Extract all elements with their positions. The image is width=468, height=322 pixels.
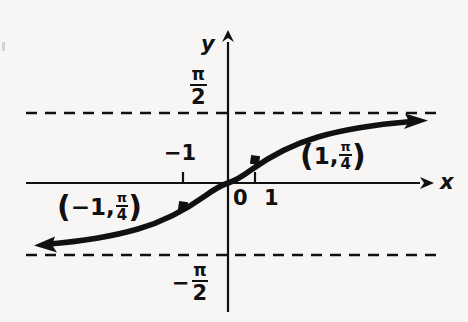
data-point-positive — [250, 155, 260, 165]
origin-label: 0 — [233, 188, 248, 209]
x-tick-label-1: 1 — [264, 188, 279, 209]
fraction-numerator: π — [192, 262, 207, 279]
figure-canvas: y x π 2 − π 2 −1 0 1 ( 1 — [0, 0, 468, 322]
y-tick-label-negative-pi-over-2: − π 2 — [172, 262, 208, 304]
y-axis-arrowhead — [222, 30, 234, 42]
open-paren: ( — [300, 143, 314, 169]
point-x-value: 1 — [314, 145, 330, 168]
open-paren: ( — [57, 194, 71, 220]
x-axis-arrowhead — [420, 177, 434, 189]
fraction-denominator: 2 — [192, 283, 209, 304]
fraction-numerator: π — [340, 140, 352, 153]
fraction-pi-2: π 2 — [190, 66, 207, 108]
graph-svg — [0, 0, 468, 322]
data-point-negative — [178, 201, 188, 211]
x-axis-label: x — [440, 172, 454, 193]
fraction-numerator: π — [116, 191, 128, 204]
point-label-negative: ( −1 , π 4 ) — [57, 191, 142, 223]
fraction-numerator: π — [191, 66, 206, 83]
fraction-pi-4: π 4 — [339, 140, 351, 172]
y-tick-label-pi-over-2: π 2 — [190, 66, 207, 108]
point-x-value: −1 — [71, 196, 106, 219]
close-paren: ) — [128, 194, 142, 220]
comma: , — [106, 196, 115, 219]
minus-sign: − — [172, 273, 190, 294]
fraction-denominator: 4 — [339, 157, 351, 172]
close-paren: ) — [352, 143, 366, 169]
comma: , — [330, 145, 339, 168]
point-label-positive: ( 1 , π 4 ) — [300, 140, 366, 172]
fraction-pi-2: π 2 — [192, 262, 209, 304]
y-axis-label: y — [201, 34, 215, 55]
x-tick-label-minus-1: −1 — [164, 143, 196, 164]
fraction-denominator: 4 — [116, 208, 128, 223]
fraction-pi-4: π 4 — [116, 191, 128, 223]
fraction-denominator: 2 — [190, 87, 207, 108]
